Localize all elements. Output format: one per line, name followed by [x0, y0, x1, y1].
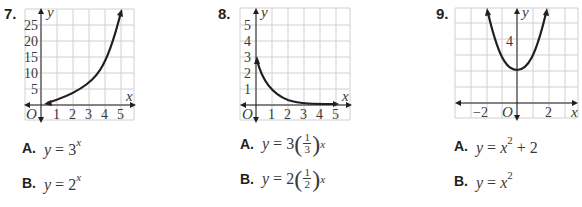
origin-label: O — [502, 104, 513, 120]
numerator: 1 — [304, 167, 310, 178]
equation: y = 3x — [44, 136, 81, 159]
choice-letter: B. — [240, 171, 254, 187]
coefficient: 2 — [286, 170, 294, 188]
denominator: 3 — [304, 144, 310, 155]
lhs: y — [262, 170, 269, 188]
right-paren: ) — [312, 134, 320, 154]
denominator: 2 — [304, 179, 310, 190]
constant-term: + 2 — [513, 139, 538, 156]
graph-7: y x O 1 2 3 4 5 5 10 15 20 25 — [0, 0, 200, 130]
x-tick: 1 — [53, 107, 60, 122]
problem-7: 7. y x O 1 2 3 4 5 5 10 15 20 25 A. — [0, 0, 200, 207]
equals: = — [269, 135, 286, 153]
y-tick: 5 — [31, 82, 38, 97]
exponent: x — [320, 173, 325, 185]
x-axis-arrow-left — [455, 100, 461, 106]
x-tick: 1 — [268, 107, 275, 122]
left-paren: ( — [294, 169, 302, 189]
equals: = — [483, 174, 500, 191]
problem-8: 8. y x O 1 2 3 4 5 1 2 3 4 5 A. — [200, 0, 400, 207]
choice-letter: B. — [454, 173, 468, 189]
equals: = — [51, 141, 68, 158]
choice-letter: B. — [22, 175, 36, 191]
x-axis-label: x — [570, 104, 578, 120]
choice-letter: A. — [22, 140, 36, 156]
fraction: 13 — [303, 132, 311, 155]
x-tick: 4 — [101, 107, 108, 122]
y-axis-arrow-up — [514, 8, 520, 14]
x-tick: 2 — [284, 107, 291, 122]
equation: y = 2x — [44, 171, 81, 194]
x-tick: 2 — [545, 105, 552, 120]
curve-arrow-left — [485, 8, 491, 16]
y-tick: 15 — [24, 50, 38, 65]
x-axis-label: x — [341, 88, 349, 104]
exponent: x — [320, 138, 325, 150]
exponent: x — [76, 171, 81, 183]
x-tick: 3 — [300, 107, 307, 122]
decay-curve — [257, 60, 334, 104]
x-axis-label: x — [125, 88, 133, 104]
equals: = — [483, 139, 500, 156]
y-tick: 4 — [506, 34, 513, 49]
equals: = — [51, 176, 68, 193]
graph-8: y x O 1 2 3 4 5 1 2 3 4 5 — [200, 0, 400, 130]
curve-arrow-right — [543, 8, 549, 16]
origin-label: O — [26, 106, 37, 122]
equation: y = 3(13)x — [262, 132, 325, 155]
equation: y = x2 — [476, 169, 513, 192]
choice-b[interactable]: B. y = 2x — [22, 171, 81, 194]
curve-arrow-right — [117, 9, 123, 17]
origin-label: O — [242, 106, 253, 122]
y-axis-arrow-up — [253, 8, 259, 14]
choice-letter: A. — [240, 136, 254, 152]
coefficient: 3 — [286, 135, 294, 153]
equals: = — [269, 170, 286, 188]
numerator: 1 — [304, 132, 310, 143]
y-tick: 1 — [244, 82, 251, 97]
y-tick: 3 — [244, 50, 251, 65]
y-axis-label: y — [259, 4, 268, 20]
x-tick: 4 — [316, 107, 323, 122]
left-paren: ( — [294, 134, 302, 154]
base: 3 — [68, 141, 76, 158]
choice-b[interactable]: B. y = x2 — [454, 169, 513, 192]
x-tick: −2 — [473, 105, 488, 120]
choice-a[interactable]: A. y = x2 + 2 — [454, 134, 538, 157]
x-tick: 2 — [69, 107, 76, 122]
choice-a[interactable]: A. y = 3x — [22, 136, 81, 159]
y-tick: 25 — [24, 18, 38, 33]
x-tick: 5 — [332, 107, 339, 122]
base: 2 — [68, 176, 76, 193]
fraction: 12 — [303, 167, 311, 190]
x-tick: 3 — [85, 107, 92, 122]
y-axis-label: y — [520, 4, 529, 20]
y-tick: 20 — [24, 34, 38, 49]
y-tick: 4 — [244, 34, 251, 49]
graph-9: y x O −2 2 4 — [390, 0, 582, 130]
exponent: 2 — [507, 169, 513, 181]
problem-9: 9. y x O −2 2 4 A. y = x2 + 2 B. — [390, 0, 582, 207]
y-tick: 2 — [244, 66, 251, 81]
lhs: y — [262, 135, 269, 153]
right-paren: ) — [312, 169, 320, 189]
choice-a[interactable]: A. y = 3(13)x — [240, 132, 325, 155]
y-tick: 5 — [244, 18, 251, 33]
y-axis-label: y — [45, 4, 54, 20]
exponent: x — [76, 136, 81, 148]
choice-b[interactable]: B. y = 2(12)x — [240, 167, 325, 190]
x-tick: 5 — [117, 107, 124, 122]
equation: y = 2(12)x — [262, 167, 325, 190]
y-tick: 10 — [24, 66, 38, 81]
choice-letter: A. — [454, 138, 468, 154]
equation: y = x2 + 2 — [476, 134, 538, 157]
